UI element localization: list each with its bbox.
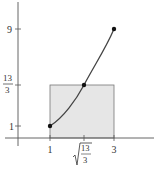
sqrt-den: 3 [83, 155, 87, 165]
x-label-1: 1 [48, 144, 53, 155]
y-label-1: 1 [9, 121, 14, 132]
x-label-sqrt-13-3: 13 3 [73, 143, 92, 165]
point-end [112, 27, 116, 31]
y-label-13-3-num: 13 [3, 73, 13, 83]
sqrt-num: 13 [81, 143, 90, 153]
y-label-13-3-den: 3 [5, 85, 10, 95]
point-mean [82, 83, 86, 87]
mean-value-rectangle [50, 85, 114, 138]
x-label-3: 3 [112, 144, 117, 155]
point-start [48, 124, 52, 128]
mean-value-diagram: 9 13 3 1 1 3 13 3 [0, 0, 156, 170]
y-label-9: 9 [7, 24, 12, 35]
